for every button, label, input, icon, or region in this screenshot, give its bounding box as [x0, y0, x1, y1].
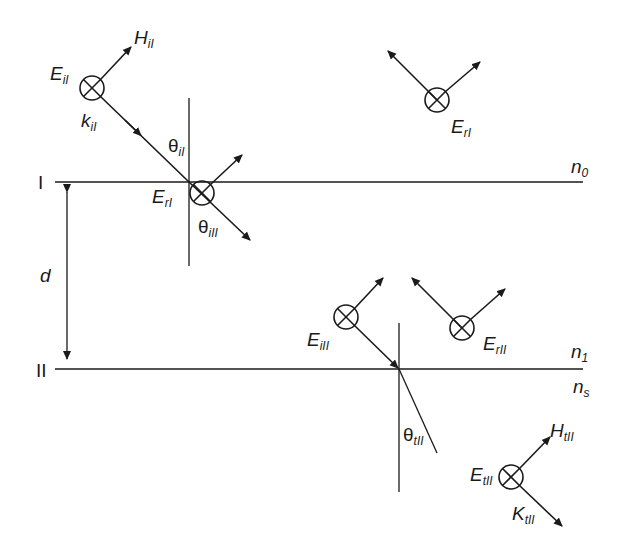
interface-I-label: I	[38, 172, 43, 193]
theta-iI-label: θiI	[168, 135, 185, 159]
E-rI-interface-label: ErI	[152, 186, 173, 210]
H-iII-arrow	[355, 278, 384, 309]
H-iI-arrow	[101, 47, 132, 80]
medium-ns-label: ns	[573, 376, 590, 400]
K-tII-label: KtII	[512, 503, 535, 527]
E-rI-reflected-label: ErI	[451, 116, 472, 140]
k-iII-ray	[355, 326, 399, 369]
H-film-arrow	[211, 155, 243, 185]
medium-n1-label: n1	[571, 341, 588, 365]
E-iII-label: EiII	[307, 329, 330, 353]
medium-n0-label: n0	[571, 156, 589, 180]
E-rII-label: ErII	[483, 333, 507, 357]
thin-film-reflection-diagram: I II d n0 n1 ns EiI HiI kiI θiI ErI θiII…	[0, 0, 624, 554]
H-tII-arrow	[520, 437, 551, 469]
interface-II-label: II	[36, 360, 47, 381]
theta-iII-label: θiII	[198, 216, 219, 240]
reflected-wave-I	[388, 51, 480, 112]
thickness-label: d	[40, 265, 52, 286]
E-iI-label: EiI	[50, 63, 69, 87]
k-iI-mid-arrow	[125, 120, 141, 136]
H-rII-arrow	[471, 289, 506, 320]
incident-wave-II	[334, 278, 398, 368]
k-rII-arrow	[412, 278, 462, 328]
H-tII-label: HtII	[550, 420, 574, 444]
k-rI-arrow	[388, 51, 437, 100]
H-rI-arrow	[446, 62, 481, 92]
E-tII-label: EtII	[470, 464, 493, 488]
reflected-wave-II	[412, 278, 505, 340]
k-iI-label: kiI	[81, 110, 97, 134]
H-iI-label: HiI	[134, 27, 154, 51]
theta-tII-label: θtII	[403, 424, 424, 448]
incident-wave-I	[80, 47, 189, 182]
